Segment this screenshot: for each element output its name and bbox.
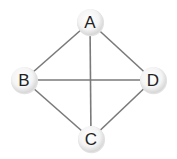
graph-diagram: ABCD bbox=[0, 0, 177, 159]
node-a: A bbox=[77, 9, 104, 36]
edges-layer bbox=[24, 22, 153, 139]
node-d: D bbox=[140, 67, 167, 94]
nodes-layer: ABCD bbox=[11, 9, 167, 153]
node-label: D bbox=[147, 71, 159, 90]
node-label: C bbox=[85, 130, 97, 149]
node-label: B bbox=[18, 71, 29, 90]
node-label: A bbox=[84, 13, 96, 32]
